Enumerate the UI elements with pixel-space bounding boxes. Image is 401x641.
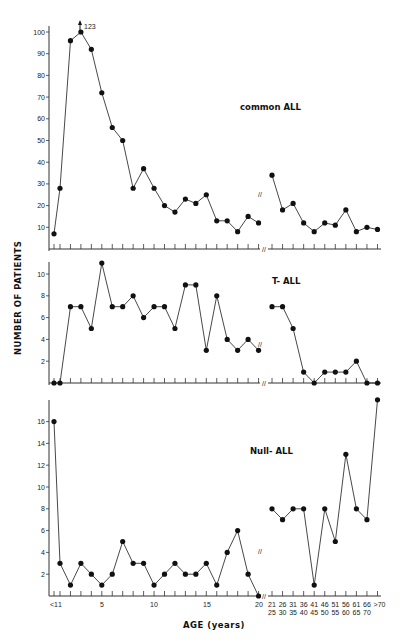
axes: //102030405060708090100////246810////246… bbox=[33, 20, 381, 600]
data-point bbox=[51, 231, 56, 236]
data-point bbox=[235, 348, 240, 353]
y-tick-label: 8 bbox=[41, 505, 45, 512]
data-point bbox=[343, 207, 348, 212]
x-tick-label-group-bottom: 60 bbox=[342, 609, 350, 616]
data-point bbox=[333, 370, 338, 375]
data-point bbox=[141, 315, 146, 320]
peak-annotation: 123 bbox=[84, 23, 96, 30]
x-tick-label: 1 bbox=[58, 601, 62, 608]
data-point bbox=[57, 186, 62, 191]
data-point bbox=[172, 561, 177, 566]
series-break-mark: // bbox=[258, 341, 262, 348]
data-point bbox=[110, 304, 115, 309]
x-tick-label-group-bottom: 45 bbox=[310, 609, 318, 616]
data-point bbox=[269, 173, 274, 178]
data-point bbox=[172, 210, 177, 215]
data-point bbox=[68, 38, 73, 43]
data-point bbox=[162, 203, 167, 208]
data-point bbox=[235, 229, 240, 234]
data-point bbox=[291, 326, 296, 331]
data-point bbox=[57, 561, 62, 566]
y-tick-label: 50 bbox=[37, 137, 45, 144]
data-point bbox=[301, 220, 306, 225]
data-point bbox=[120, 138, 125, 143]
y-axis-title: NUMBER OF PATIENTS bbox=[13, 241, 23, 355]
y-tick-label: 70 bbox=[37, 94, 45, 101]
labels: NUMBER OF PATIENTS AGE (years) common AL… bbox=[13, 23, 386, 630]
x-tick-label-group-top: 36 bbox=[300, 601, 308, 608]
series-break-mark: // bbox=[258, 548, 262, 555]
data-point bbox=[246, 572, 251, 577]
x-tick-label-group-top: 46 bbox=[321, 601, 329, 608]
data-point bbox=[280, 207, 285, 212]
data-point bbox=[151, 583, 156, 588]
data-point bbox=[78, 29, 83, 34]
data-point bbox=[214, 293, 219, 298]
x-tick-label-group-bottom: 55 bbox=[331, 609, 339, 616]
data-point bbox=[256, 220, 261, 225]
data-point bbox=[193, 282, 198, 287]
data-point bbox=[162, 572, 167, 577]
x-tick-label-group-top: 26 bbox=[279, 601, 287, 608]
data-point bbox=[151, 186, 156, 191]
y-tick-label: 4 bbox=[41, 549, 45, 556]
data-point bbox=[375, 397, 380, 402]
data-point bbox=[333, 539, 338, 544]
data-point bbox=[78, 304, 83, 309]
data-point bbox=[183, 196, 188, 201]
data-point bbox=[162, 304, 167, 309]
data-point bbox=[89, 326, 94, 331]
data-point bbox=[204, 348, 209, 353]
x-tick-label-group-bottom: 70 bbox=[363, 609, 371, 616]
y-tick-label: 6 bbox=[41, 314, 45, 321]
x-tick-label-group-top: 61 bbox=[353, 601, 361, 608]
panel-title-common-all: common ALL bbox=[240, 102, 301, 112]
data-point bbox=[57, 380, 62, 385]
y-tick-label: 2 bbox=[41, 571, 45, 578]
x-tick-label-group-bottom: 25 bbox=[268, 609, 276, 616]
data-point bbox=[51, 380, 56, 385]
data-point bbox=[78, 561, 83, 566]
y-tick-label: 10 bbox=[37, 484, 45, 491]
data-point bbox=[364, 517, 369, 522]
data-point bbox=[291, 506, 296, 511]
data-point bbox=[141, 166, 146, 171]
data-point bbox=[280, 304, 285, 309]
y-tick-label: 6 bbox=[41, 527, 45, 534]
y-tick-label: 30 bbox=[37, 180, 45, 187]
x-tick-label-group-top: >70 bbox=[374, 601, 386, 608]
x-tick-label-group-top: 41 bbox=[310, 601, 318, 608]
y-tick-label: 100 bbox=[33, 29, 45, 36]
data-point bbox=[172, 326, 177, 331]
y-tick-label: 16 bbox=[37, 418, 45, 425]
data-point bbox=[183, 572, 188, 577]
x-tick-label: <1 bbox=[50, 601, 58, 608]
data-point bbox=[214, 583, 219, 588]
data-point bbox=[354, 506, 359, 511]
data-point bbox=[312, 380, 317, 385]
data-point bbox=[269, 304, 274, 309]
data-point bbox=[343, 452, 348, 457]
series-break-mark: // bbox=[258, 191, 262, 198]
x-tick-label-group-bottom: 30 bbox=[279, 609, 287, 616]
x-tick-label: 15 bbox=[203, 601, 211, 608]
axis-break-mark: // bbox=[262, 246, 266, 253]
data-point bbox=[246, 337, 251, 342]
data-point bbox=[269, 506, 274, 511]
y-tick-label: 14 bbox=[37, 440, 45, 447]
y-tick-label: 90 bbox=[37, 50, 45, 57]
data-point bbox=[68, 304, 73, 309]
x-tick-label-group-top: 66 bbox=[363, 601, 371, 608]
x-tick-label: 10 bbox=[150, 601, 158, 608]
data-point bbox=[99, 90, 104, 95]
x-tick-label-group-top: 31 bbox=[289, 601, 297, 608]
data-point bbox=[322, 370, 327, 375]
y-tick-label: 40 bbox=[37, 159, 45, 166]
data-point bbox=[246, 214, 251, 219]
series-line bbox=[272, 400, 378, 585]
data-point bbox=[110, 125, 115, 130]
data-point bbox=[225, 218, 230, 223]
y-tick-label: 12 bbox=[37, 462, 45, 469]
data-point bbox=[141, 561, 146, 566]
x-tick-label-group-bottom: 50 bbox=[321, 609, 329, 616]
